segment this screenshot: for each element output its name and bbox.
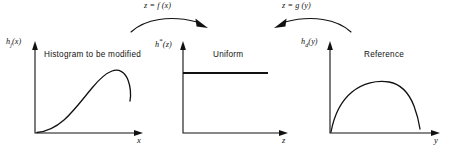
forward-mapping-label: z = f (x): [144, 2, 171, 10]
panel-2-y-arrowhead: [180, 41, 186, 50]
panel-1-title: Histogram to be modified: [44, 51, 141, 59]
panel-1-curve: [37, 70, 131, 132]
diagram-canvas: [0, 0, 449, 152]
panel-1-x-axis-label: x: [137, 136, 141, 145]
panel-3-y-axis-argument: (y): [308, 37, 317, 46]
inverse-mapping-arrow: [274, 19, 351, 32]
panel-3-y-arrowhead: [327, 41, 333, 50]
forward-mapping-arrow: [131, 19, 208, 32]
forward-arrow-curve: [131, 19, 197, 32]
panel-2-y-axis-argument: (z): [163, 40, 172, 49]
inverse-arrow-curve: [285, 19, 351, 32]
inverse-mapping-label: z = g (y): [282, 2, 311, 10]
panel-1-y-axis-label: hj(x): [6, 38, 21, 48]
inverse-arrowhead: [274, 19, 287, 28]
panel-3-x-axis-label: y: [434, 136, 438, 145]
panel-3-title: Reference: [364, 51, 404, 59]
panel-1-axis-lines: [35, 48, 136, 133]
panel-1-y-axis-argument: (x): [12, 37, 21, 46]
panel-2-x-axis-label: z: [282, 136, 285, 145]
histogram-specification-diagram: z = f (x) z = g (y) hj(x) Histogram to b…: [0, 0, 449, 152]
panel-3-curve: [331, 81, 420, 132]
panel-2-y-axis-label: h*(z): [155, 38, 172, 49]
panel-2-title: Uniform: [213, 51, 243, 59]
forward-arrowhead: [195, 19, 208, 28]
panel-1-y-arrowhead: [32, 41, 38, 50]
panel-3-axis-lines: [330, 48, 433, 133]
panel-2-axis-lines: [183, 48, 281, 133]
panel-3-y-axis-label: hd(y): [301, 38, 318, 48]
